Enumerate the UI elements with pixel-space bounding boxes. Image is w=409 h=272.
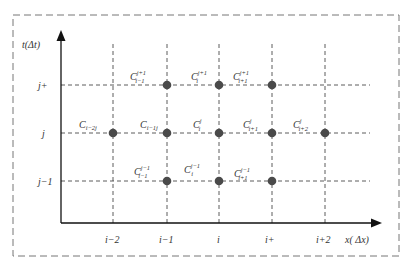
x-tick-label: i−2: [105, 234, 120, 245]
node: [268, 81, 277, 90]
node: [268, 177, 277, 186]
y-tick-label: j−1: [36, 176, 53, 187]
node-label: Cj−1i: [184, 162, 200, 177]
node-label: Cj+1i−1: [130, 69, 146, 84]
node-label-group-row-j-minus: Cj−1i−1 Cj−1i Cj−1i+1: [134, 162, 250, 181]
x-axis-arrow-icon: [371, 219, 382, 228]
node-label: Cj−1i+1: [234, 166, 250, 181]
y-axis-arrow-icon: [57, 30, 66, 41]
node-label: Cj+1i+1: [233, 69, 249, 84]
y-tick-label: j+: [36, 80, 48, 91]
node: [163, 81, 172, 90]
node: [163, 129, 172, 138]
node: [163, 177, 172, 186]
node-label: Cj−1i−1: [134, 164, 150, 179]
node-label: Cji: [193, 117, 202, 132]
node: [268, 129, 277, 138]
node-label: Ci−1j: [140, 119, 158, 131]
outer-frame: [13, 15, 399, 256]
x-tick-label: i+2: [316, 234, 331, 245]
node: [215, 81, 224, 90]
node-label: Cji+2: [293, 117, 309, 132]
y-axis-title: t(Δt): [22, 39, 41, 51]
node-label: Ci−2j: [79, 119, 97, 131]
node-label: Cji+1: [243, 117, 258, 132]
x-tick-label: i+: [265, 234, 275, 245]
x-tick-label: i: [217, 234, 220, 245]
x-tick-label: i−1: [159, 234, 174, 245]
node: [321, 129, 330, 138]
y-tick-label: j: [40, 128, 45, 139]
node: [215, 129, 224, 138]
node-label-group-row-j-plus: Cj+1i−1 Cj+1i Cj+1i+1: [130, 69, 249, 84]
node-label: Cj+1i: [191, 69, 207, 84]
x-axis-title: x( Δx): [344, 234, 370, 246]
fd-grid-diagram: t(Δt) x( Δx) j+ j j−1 i−2 i−1 i i+ i+2 C…: [0, 0, 409, 272]
node: [215, 177, 224, 186]
node: [109, 129, 118, 138]
